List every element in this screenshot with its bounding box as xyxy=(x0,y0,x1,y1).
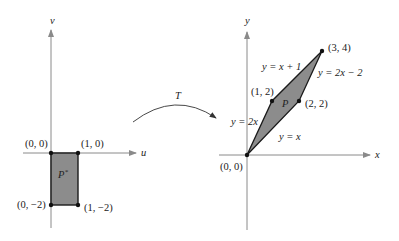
vertex-label: (3, 4) xyxy=(328,42,351,54)
edge-label: y = 2x − 2 xyxy=(317,67,363,78)
edge-label: y = x + 1 xyxy=(261,61,301,72)
transform-label: T xyxy=(175,90,182,101)
y-axis-label: y xyxy=(244,15,250,26)
vertex-point xyxy=(297,99,301,103)
u-axis-label: u xyxy=(141,147,146,158)
vertex-label: (2, 2) xyxy=(305,98,328,110)
vertex-label: (0, −2) xyxy=(17,199,46,211)
edge-label: y = 2x xyxy=(230,116,258,127)
region-p-label: P xyxy=(281,98,289,109)
xy-plane: y x P (0, 0) (1, 2) (2, 2) (3, 4) y = x … xyxy=(219,15,380,230)
vertex-point xyxy=(270,99,274,103)
uv-plane: v u P* (0, 0) (1, 0) (0, −2) (1, −2) xyxy=(17,15,146,228)
transformation-diagram: v u P* (0, 0) (1, 0) (0, −2) (1, −2) T y… xyxy=(0,0,399,241)
edge-label: y = x xyxy=(278,131,301,142)
vertex-point xyxy=(76,151,80,155)
vertex-point xyxy=(49,203,53,207)
vertex-label: (1, 0) xyxy=(81,138,104,150)
region-p-star xyxy=(51,153,78,205)
vertex-point xyxy=(49,151,53,155)
vertex-label: (1, −2) xyxy=(84,202,113,214)
vertex-label: (1, 2) xyxy=(251,86,274,98)
vertex-label: (0, 0) xyxy=(220,161,243,173)
vertex-label: (0, 0) xyxy=(25,138,48,150)
x-axis-label: x xyxy=(374,149,380,160)
transformation-arrow: T xyxy=(133,90,216,122)
v-axis-label: v xyxy=(50,15,55,26)
vertex-point xyxy=(245,153,249,157)
vertex-point xyxy=(76,203,80,207)
vertex-point xyxy=(320,49,324,53)
